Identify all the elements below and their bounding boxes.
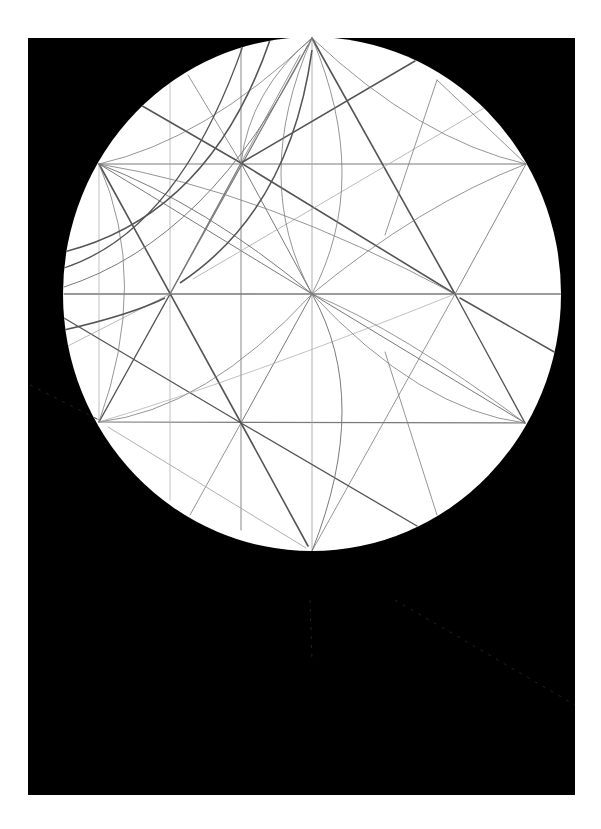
construction-drawing bbox=[0, 0, 601, 829]
